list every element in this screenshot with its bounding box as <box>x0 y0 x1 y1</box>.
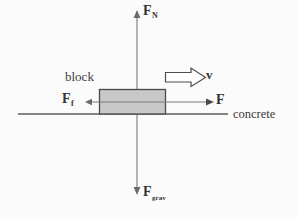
velocity-label: v <box>206 68 213 81</box>
normal-force-arrowhead-icon <box>134 10 141 18</box>
gravity-force-symbol: F <box>143 184 152 199</box>
velocity-block-arrow-icon <box>166 68 206 87</box>
normal-force-symbol: F <box>143 3 152 18</box>
friction-force-label: Ff <box>62 92 73 106</box>
block-label: block <box>65 70 94 83</box>
gravity-force-subscript: grav <box>152 194 166 202</box>
normal-force-subscript: N <box>152 11 158 20</box>
friction-force-subscript: f <box>71 99 74 108</box>
physics-diagram-canvas: FN Fgrav Ff F v block concrete <box>0 0 299 217</box>
concrete-surface-label: concrete <box>233 108 275 121</box>
friction-force-arrowhead-icon <box>85 99 92 105</box>
normal-force-label: FN <box>143 4 157 18</box>
applied-force-label: F <box>216 93 225 107</box>
applied-force-arrowhead-icon <box>206 98 214 105</box>
friction-force-symbol: F <box>62 91 71 106</box>
gravity-force-label: Fgrav <box>143 185 165 199</box>
gravity-force-arrowhead-icon <box>134 187 141 195</box>
